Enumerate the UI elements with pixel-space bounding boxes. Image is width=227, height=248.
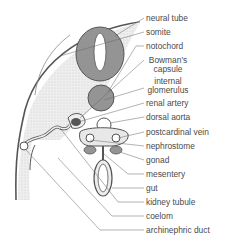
label-postcardinal-vein: postcardinal vein (146, 128, 209, 137)
label-glomerulus-line2: glomerulus (146, 86, 190, 95)
label-archinephric-duct: archinephric duct (146, 226, 210, 235)
archinephric-duct (20, 142, 28, 150)
embryo-cross-section-diagram (0, 0, 227, 248)
label-gut: gut (146, 184, 158, 193)
label-nephrostome: nephrostome (146, 142, 195, 151)
label-renal-artery: renal artery (146, 99, 188, 108)
label-gonad: gonad (146, 156, 169, 165)
label-internal-glomerulus: internal glomerulus (146, 77, 190, 95)
label-notochord: notochord (146, 42, 183, 51)
label-neural-tube: neural tube (146, 14, 188, 23)
kidney-region (68, 114, 128, 155)
label-coelom: coelom (146, 212, 173, 221)
label-somite: somite (146, 28, 171, 37)
label-bowmans-line2: capsule (146, 65, 190, 74)
label-mesentery: mesentery (146, 170, 185, 179)
label-bowmans-capsule: Bowman's capsule (146, 56, 190, 74)
label-kidney-tubule: kidney tubule (146, 198, 195, 207)
label-dorsal-aorta: dorsal aorta (146, 113, 190, 122)
